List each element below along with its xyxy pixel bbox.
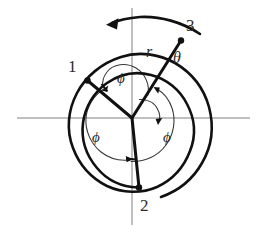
label-point-3: 3 <box>186 17 195 34</box>
label-radius-r: r <box>146 44 152 60</box>
node-dot-1 <box>84 77 90 83</box>
radial-arms-group <box>88 41 182 188</box>
arm-1-line <box>88 81 133 119</box>
label-angle-phi-right: ϕ <box>163 130 171 145</box>
label-angle-phi-left: ϕ <box>92 130 100 145</box>
label-point-1: 1 <box>68 58 77 75</box>
spiral-diagram-figure: 1 2 3 r θ ϕ ϕ ϕ <box>0 0 266 233</box>
theta-inner-arc-arrowhead <box>156 118 163 125</box>
label-point-2: 2 <box>140 197 149 214</box>
node-dot-3 <box>178 37 184 43</box>
tick-arm-2 <box>126 159 136 160</box>
outer-spiral-path <box>69 54 212 197</box>
node-dot-2 <box>136 184 142 190</box>
spiral-diagram-canvas <box>0 0 266 233</box>
outer-spiral-arrowhead <box>106 18 119 29</box>
outer-spiral-group <box>69 54 212 197</box>
phi-arc-top <box>103 65 149 95</box>
label-angle-theta: θ <box>173 50 181 66</box>
arm-2-line <box>132 118 139 188</box>
label-angle-phi-top: ϕ <box>117 71 125 86</box>
phi-arc-right <box>131 89 174 162</box>
phi-arc-right-arrowhead <box>154 87 160 94</box>
